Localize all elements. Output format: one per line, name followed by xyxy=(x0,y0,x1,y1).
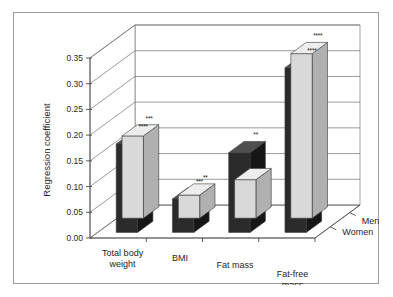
series-label-men: Men xyxy=(362,216,380,226)
x-axis-label-1: BMI xyxy=(172,253,188,263)
significance-men-3: **** xyxy=(307,47,317,54)
y-axis-tick-label: 0.05 xyxy=(66,207,83,217)
series-label-women: Women xyxy=(342,227,373,237)
y-axis-tick-label: 0.35 xyxy=(66,53,83,63)
y-axis-tick-label: 0.25 xyxy=(66,104,83,114)
significance-women-3: **** xyxy=(313,32,323,39)
series-axis-tick-women xyxy=(350,213,356,216)
y-axis-tick-label: 0.15 xyxy=(66,156,83,166)
bar-women-3 xyxy=(291,42,328,218)
y-axis-tick-label: 0.00 xyxy=(66,233,83,243)
chart-plot-area: 0.000.050.100.150.200.250.300.35Regressi… xyxy=(14,13,380,285)
x-axis-label-3: Fat-freemass xyxy=(277,269,309,285)
significance-men-2: ** xyxy=(253,131,258,138)
y-axis-tick-label: 0.10 xyxy=(66,182,83,192)
significance-women-1: ** xyxy=(203,174,208,181)
x-axis-label-2: Fat mass xyxy=(217,260,255,270)
figure-frame: Body composition components 0.000.050.10… xyxy=(13,12,379,284)
bar-women-0 xyxy=(122,125,159,219)
y-axis-title: Regression coefficient xyxy=(41,103,52,197)
x-axis-label-0: Total bodyweight xyxy=(102,248,144,269)
bar-women-2 xyxy=(235,168,272,218)
y-axis-tick-label: 0.30 xyxy=(66,79,83,89)
significance-men-0: **** xyxy=(139,123,149,130)
significance-women-0: *** xyxy=(146,115,154,122)
y-axis-tick-label: 0.20 xyxy=(66,130,83,140)
series-axis-tick-men xyxy=(330,227,336,230)
